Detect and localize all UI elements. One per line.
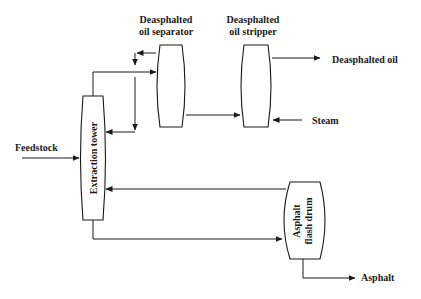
asphalt-arrow	[303, 259, 355, 278]
steam-label: Steam	[312, 115, 339, 126]
oil-stripper-label-1: Deasphalted	[227, 14, 280, 25]
flash-drum-label-2: flash drum	[303, 197, 314, 245]
flash-drum-label-1: Asphalt	[291, 204, 302, 238]
oil-stripper-vessel	[241, 45, 271, 127]
process-flow-diagram: Extraction tower Deasphalted oil separat…	[0, 0, 421, 299]
deasphalted-oil-label: Deasphalted oil	[332, 54, 398, 65]
oil-separator-label-1: Deasphalted	[140, 14, 193, 25]
tower-overhead-line	[93, 72, 156, 96]
tower-bottoms-line	[93, 220, 282, 239]
feedstock-label: Feedstock	[15, 142, 58, 153]
oil-separator-label-2: oil separator	[139, 26, 194, 37]
oil-stripper-label-2: oil stripper	[229, 26, 277, 37]
extraction-tower-label: Extraction tower	[88, 121, 99, 194]
oil-separator-vessel	[157, 45, 185, 127]
asphalt-label: Asphalt	[361, 272, 395, 283]
